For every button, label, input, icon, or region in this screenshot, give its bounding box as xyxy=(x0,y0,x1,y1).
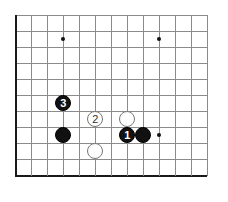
grid-line-vertical xyxy=(127,15,128,176)
star-point-upper-left xyxy=(61,37,65,41)
stone-move-number: 3 xyxy=(60,98,66,109)
stone-black-move-3[interactable]: 3 xyxy=(55,95,71,111)
grid-line-vertical xyxy=(175,15,176,176)
goban-grid[interactable]: 321 xyxy=(0,0,228,202)
grid-line-vertical xyxy=(111,15,112,176)
grid-line-vertical xyxy=(207,15,208,176)
grid-line-vertical xyxy=(191,15,192,176)
grid-line-vertical xyxy=(143,15,144,176)
stone-white-move-2[interactable]: 2 xyxy=(87,111,103,127)
board-edge-left xyxy=(15,15,17,177)
grid-line-vertical xyxy=(79,15,80,176)
stone-move-number: 1 xyxy=(124,130,130,141)
star-point-upper-right xyxy=(157,37,161,41)
stone-black-move-1[interactable]: 1 xyxy=(119,127,135,143)
stone-black-plain-left[interactable] xyxy=(55,127,71,143)
stone-white-plain-upper[interactable] xyxy=(119,111,135,127)
grid-line-vertical xyxy=(31,15,32,176)
stone-move-number: 2 xyxy=(92,114,98,125)
stone-black-plain-right[interactable] xyxy=(135,127,151,143)
grid-line-vertical xyxy=(47,15,48,176)
go-board-diagram: 321 xyxy=(0,0,228,202)
star-point-lower-right xyxy=(157,133,161,137)
stone-white-plain-lower[interactable] xyxy=(87,143,103,159)
